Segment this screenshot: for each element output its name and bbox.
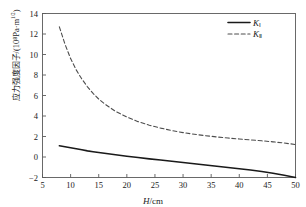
x-tick-label: 40 xyxy=(235,180,244,190)
x-tick-label: 50 xyxy=(291,180,300,190)
x-tick-label: 35 xyxy=(207,180,216,190)
chart-figure: 5101520253035404550 −202468101214 KⅠKⅡ xyxy=(0,0,306,207)
y-axis-title: 应力强度因子/(10⁸Pa·m1/2) xyxy=(10,0,21,141)
y-axis-title-unit-tail: ) xyxy=(11,10,21,13)
x-tick-label: 30 xyxy=(179,180,188,190)
x-axis-title: H/cm xyxy=(0,196,306,206)
x-tick-label: 15 xyxy=(94,180,103,190)
x-tick-label: 10 xyxy=(66,180,75,190)
x-tick-label: 45 xyxy=(263,180,272,190)
y-tick-label: 8 xyxy=(34,70,38,80)
x-tick-label: 25 xyxy=(151,180,160,190)
x-axis-title-unit: /cm xyxy=(150,196,164,206)
y-tick-label: 0 xyxy=(34,152,38,162)
y-tick-label: 2 xyxy=(34,132,38,142)
x-tick-label: 20 xyxy=(123,180,132,190)
y-tick-label: 6 xyxy=(34,91,38,101)
y-tick-label: 10 xyxy=(30,50,39,60)
y-axis-title-unit-exponent: 1/2 xyxy=(10,12,16,19)
x-tick-label: 5 xyxy=(40,180,44,190)
y-axis-title-unit: /(10⁸Pa·m xyxy=(11,19,21,54)
y-tick-label: 12 xyxy=(30,29,39,39)
y-tick-label: 14 xyxy=(30,9,39,19)
y-axis-title-cn: 应力强度因子 xyxy=(12,53,21,101)
chart-background xyxy=(0,0,306,207)
y-tick-label: −2 xyxy=(29,173,38,183)
